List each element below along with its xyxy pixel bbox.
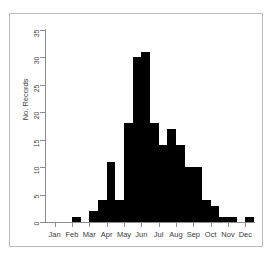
y-tick-mark — [40, 57, 45, 58]
x-tick-label: Apr — [101, 230, 113, 239]
x-tick-label: Aug — [169, 230, 182, 239]
y-tick-label: 5 — [22, 191, 37, 199]
histogram-bar — [228, 217, 237, 222]
x-tick-label: Sep — [187, 230, 200, 239]
y-tick-mark — [40, 112, 45, 113]
y-tick-label: 35 — [22, 26, 37, 34]
y-tick-mark — [40, 195, 45, 196]
x-tick-mark — [89, 223, 90, 227]
y-tick-mark — [40, 167, 45, 168]
x-tick-label: Mar — [83, 230, 96, 239]
histogram-bar — [150, 123, 159, 222]
histogram-bar — [185, 167, 194, 222]
y-tick-mark — [40, 140, 45, 141]
x-tick-mark — [72, 223, 73, 227]
x-tick-mark — [193, 223, 194, 227]
x-tick-mark — [124, 223, 125, 227]
y-tick-label: 30 — [22, 53, 37, 61]
x-tick-label: Nov — [221, 230, 234, 239]
y-tick-label-text: 15 — [34, 139, 41, 147]
y-tick-label: 10 — [22, 163, 37, 171]
x-tick-label: Feb — [66, 230, 79, 239]
bar-series — [46, 30, 254, 222]
y-tick-mark — [40, 85, 45, 86]
x-tick-mark — [107, 223, 108, 227]
x-tick-label: Dec — [239, 230, 252, 239]
x-tick-mark — [211, 223, 212, 227]
y-tick-mark — [40, 222, 45, 223]
x-tick-label: Jun — [135, 230, 147, 239]
histogram-bar — [202, 200, 211, 222]
histogram-bar — [89, 211, 98, 222]
x-tick-label: Jul — [154, 230, 164, 239]
y-tick-label-text: 25 — [34, 84, 41, 92]
x-tick-mark — [228, 223, 229, 227]
histogram-bar — [167, 129, 176, 222]
y-tick-label-text: 30 — [34, 57, 41, 65]
y-tick-label-text: 5 — [34, 194, 41, 198]
histogram-bar — [245, 217, 254, 222]
x-axis-line — [46, 222, 255, 223]
plot-area — [46, 30, 254, 222]
x-tick-label: Jan — [49, 230, 61, 239]
y-tick-label-text: 0 — [34, 222, 41, 226]
x-tick-label: Oct — [205, 230, 217, 239]
histogram-bar — [98, 200, 107, 222]
y-tick-label-text: 35 — [34, 30, 41, 38]
histogram-bar — [219, 217, 228, 222]
y-tick-label-text: 10 — [34, 167, 41, 175]
histogram-bar — [107, 162, 116, 222]
y-tick-label-text: 20 — [34, 112, 41, 120]
histogram-bar — [193, 167, 202, 222]
histogram-bar — [211, 206, 220, 222]
histogram-bar — [159, 145, 168, 222]
y-tick-mark — [40, 30, 45, 31]
histogram-figure: 35302520151050 No. Records JanFebMarAprM… — [0, 0, 273, 259]
x-tick-mark — [159, 223, 160, 227]
histogram-bar — [124, 123, 133, 222]
x-tick-mark — [141, 223, 142, 227]
x-tick-mark — [55, 223, 56, 227]
x-tick-mark — [176, 223, 177, 227]
y-axis-title: No. Records — [21, 70, 30, 130]
histogram-bar — [176, 145, 185, 222]
y-tick-label: 0 — [22, 218, 37, 226]
x-tick-mark — [245, 223, 246, 227]
histogram-bar — [133, 57, 142, 222]
histogram-bar — [72, 217, 81, 222]
x-tick-label: May — [117, 230, 131, 239]
histogram-bar — [141, 52, 150, 222]
histogram-bar — [115, 200, 124, 222]
y-tick-label: 15 — [22, 136, 37, 144]
